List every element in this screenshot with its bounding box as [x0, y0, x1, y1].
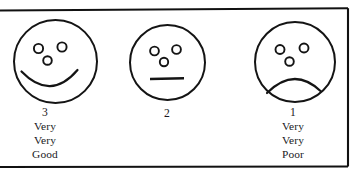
faces-rating-scale-figure: 3 Very Very Good 2 1 Very Very	[0, 0, 358, 175]
sad-face-nose	[285, 57, 294, 66]
happy-face-right-eye	[57, 42, 66, 51]
happy-face-nose	[43, 56, 52, 65]
neutral-face-mouth-line	[150, 78, 184, 79]
happy-face	[14, 20, 97, 103]
sad-face-score: 1	[290, 106, 296, 119]
neutral-face	[130, 25, 205, 100]
sad-face-label-line-3: Poor	[282, 148, 304, 160]
happy-face-label: 3 Very Very Good	[32, 106, 58, 160]
happy-face-left-eye	[34, 44, 43, 53]
sad-face-label: 1 Very Very Poor	[282, 106, 304, 160]
happy-face-head	[14, 20, 97, 103]
sad-face-label-line-1: Very	[282, 120, 304, 132]
neutral-face-score: 2	[164, 107, 170, 120]
happy-face-label-line-2: Very	[34, 134, 56, 146]
sad-face-left-eye	[276, 45, 285, 54]
neutral-face-nose	[160, 58, 168, 66]
sad-face-label-line-2: Very	[282, 134, 304, 146]
border-top	[0, 8, 348, 10]
happy-face-score: 3	[42, 106, 48, 119]
border-bottom	[0, 167, 348, 168]
happy-face-label-line-1: Very	[34, 120, 56, 132]
sad-face	[255, 22, 335, 102]
neutral-face-left-eye	[150, 47, 159, 56]
neutral-face-label: 2	[164, 107, 170, 120]
sad-face-head	[255, 22, 335, 102]
happy-face-label-line-3: Good	[32, 148, 58, 160]
sad-face-right-eye	[300, 44, 309, 53]
neutral-face-right-eye	[172, 45, 181, 54]
